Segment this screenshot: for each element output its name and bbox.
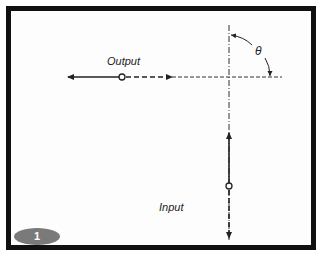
output-label: Output: [107, 55, 140, 67]
figure-number: 1: [34, 230, 40, 242]
output-pivot-circle: [119, 74, 125, 80]
input-pivot-circle: [226, 183, 232, 189]
diagram-canvas: [0, 0, 320, 257]
angle-theta-label: θ: [255, 44, 262, 58]
input-label: Input: [159, 201, 183, 213]
angle-arc-lower: [265, 58, 270, 76]
figure-number-badge: 1: [14, 228, 60, 245]
angle-arc-upper: [231, 35, 252, 45]
